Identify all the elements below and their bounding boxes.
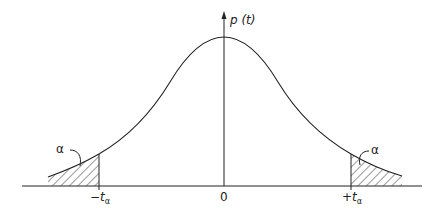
- y-axis-label: p (t): [230, 14, 256, 26]
- right-tail-alpha-label: α: [371, 144, 379, 156]
- left-critical-value-label: −tα: [90, 191, 110, 203]
- diagram-canvas: p (t) α α −tα 0 +tα: [0, 0, 438, 214]
- origin-label: 0: [220, 191, 228, 203]
- right-critical-value-label: +tα: [342, 191, 362, 203]
- density-curve: [48, 37, 402, 177]
- y-axis-arrow-icon: [222, 11, 227, 19]
- left-alpha-pointer: [70, 150, 81, 166]
- t-distribution-figure: [0, 0, 438, 214]
- right-tail-shading: [345, 140, 415, 190]
- left-tail-alpha-label: α: [56, 143, 64, 155]
